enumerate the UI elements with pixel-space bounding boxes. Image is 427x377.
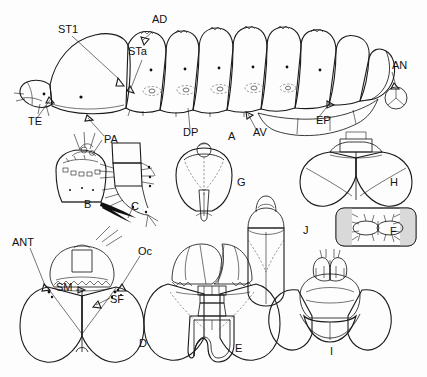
panel-b-head-lateral — [56, 132, 136, 223]
annotation-dp: DP — [183, 127, 198, 138]
panel-label-c: C — [131, 201, 139, 212]
panel-j-segment — [248, 196, 284, 306]
panel-a-larva — [14, 26, 395, 136]
annotation-sf: SF — [110, 294, 124, 305]
annotation-oc: Oc — [138, 246, 152, 257]
panel-g-pronotum — [176, 143, 232, 221]
annotation-te: TE — [28, 116, 42, 127]
anus-structure — [385, 87, 407, 109]
panel-label-d: D — [139, 338, 147, 349]
panel-h-sclerites — [300, 132, 412, 206]
panel-f-plate — [336, 208, 416, 246]
panel-label-j: J — [303, 225, 309, 236]
annotation-st1: ST1 — [58, 24, 78, 35]
annotation-ep: EP — [316, 115, 331, 126]
panel-i-labium — [269, 249, 391, 350]
plate-artwork — [0, 0, 427, 377]
panel-e-head-ventral — [144, 244, 280, 362]
annotation-ad: AD — [152, 14, 167, 25]
annotation-sta: STa — [128, 46, 147, 57]
annotation-av: AV — [253, 127, 267, 138]
panel-label-b: B — [84, 199, 91, 210]
panel-label-i: I — [330, 346, 333, 357]
illustration-plate — [0, 0, 427, 377]
panel-label-g: G — [237, 177, 246, 188]
annotation-sm: SM — [56, 282, 73, 293]
annotation-an: AN — [392, 60, 407, 71]
panel-label-e: E — [235, 343, 242, 354]
panel-label-a: A — [228, 131, 235, 142]
panel-label-f: F — [390, 226, 397, 237]
annotation-ant: ANT — [12, 237, 34, 248]
panel-label-h: H — [390, 177, 398, 188]
panel-d-head-dorsal — [20, 226, 144, 362]
annotation-pa: PA — [104, 134, 118, 145]
panel-a-leaders — [37, 32, 399, 136]
